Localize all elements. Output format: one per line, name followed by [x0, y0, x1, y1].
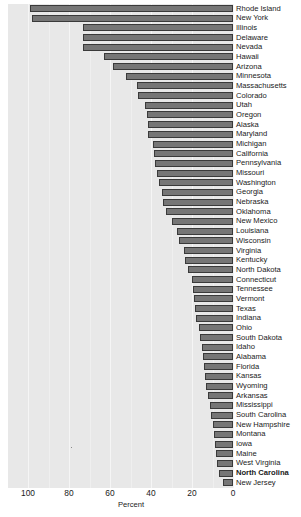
category-label: New Mexico: [236, 216, 277, 225]
x-tick-label: 60: [105, 488, 114, 498]
x-axis-title: Percent: [118, 500, 144, 509]
category-label: North Carolina: [236, 468, 289, 477]
bar: [159, 179, 233, 186]
category-label: California: [236, 149, 268, 158]
bar: [194, 295, 233, 302]
x-tick-label: 0: [231, 488, 236, 498]
category-label: Maryland: [236, 129, 267, 138]
bar: [83, 34, 233, 41]
x-tick-label: 20: [187, 488, 196, 498]
bar: [155, 160, 233, 167]
category-label: Rhode Island: [236, 4, 281, 13]
category-label: Louisiana: [236, 226, 269, 235]
bar: [200, 334, 233, 341]
bar: [199, 324, 233, 331]
bar: [203, 353, 233, 360]
category-label: Hawaii: [236, 52, 259, 61]
bar: [215, 441, 233, 448]
bar: [153, 141, 233, 148]
category-labels: Rhode IslandNew YorkIllinoisDelawareNeva…: [236, 4, 301, 488]
bar: [162, 189, 233, 196]
bar: [138, 92, 233, 99]
x-axis: Percent 100806040200: [0, 488, 301, 517]
category-label: Arizona: [236, 62, 262, 71]
category-label: Oregon: [236, 110, 261, 119]
category-label: Minnesota: [236, 71, 271, 80]
bar: [147, 111, 233, 118]
category-label: Michigan: [236, 139, 266, 148]
bar: [213, 421, 234, 428]
category-label: Tennessee: [236, 284, 273, 293]
bar: [154, 150, 233, 157]
category-label: New Jersey: [236, 478, 276, 487]
x-tick-label: 40: [146, 488, 155, 498]
bar: [113, 63, 233, 70]
bar: [126, 73, 233, 80]
bar: [206, 383, 233, 390]
bar: [172, 218, 234, 225]
bar: [202, 344, 233, 351]
bar: [223, 479, 233, 486]
category-label: Florida: [236, 362, 259, 371]
bar: [205, 373, 233, 380]
category-label: Alabama: [236, 352, 266, 361]
bar: [163, 199, 233, 206]
category-label: Georgia: [236, 187, 263, 196]
bar: [195, 305, 233, 312]
category-label: Kentucky: [236, 255, 267, 264]
bar: [193, 286, 233, 293]
category-label: Pennsylvania: [236, 158, 281, 167]
category-label: Vermont: [236, 294, 264, 303]
category-label: Arkansas: [236, 391, 268, 400]
bar: [185, 257, 233, 264]
category-label: Utah: [236, 100, 252, 109]
category-label: Delaware: [236, 33, 268, 42]
bar: [32, 15, 233, 22]
x-tick-label: 100: [21, 488, 35, 498]
category-label: Nebraska: [236, 197, 269, 206]
category-label: Maine: [236, 449, 257, 458]
bar: [177, 228, 233, 235]
category-label: Ohio: [236, 323, 252, 332]
category-label: Colorado: [236, 91, 267, 100]
bar: [210, 402, 233, 409]
category-label: South Carolina: [236, 410, 286, 419]
category-label: Wyoming: [236, 381, 268, 390]
category-label: South Dakota: [236, 333, 282, 342]
bar: [179, 237, 233, 244]
category-label: Nevada: [236, 42, 262, 51]
category-label: Idaho: [236, 342, 255, 351]
category-label: Montana: [236, 429, 266, 438]
bar: [166, 208, 233, 215]
category-label: Missouri: [236, 168, 264, 177]
bar: [104, 53, 233, 60]
category-label: Kansas: [236, 371, 261, 380]
category-label: Connecticut: [236, 275, 276, 284]
bar: [204, 363, 233, 370]
bar: [217, 460, 233, 467]
category-label: Massachusetts: [236, 81, 287, 90]
bar: [83, 24, 233, 31]
category-label: Indiana: [236, 313, 261, 322]
bar: [148, 121, 233, 128]
bar: [208, 392, 233, 399]
bar: [184, 247, 233, 254]
bar: [157, 170, 233, 177]
category-label: North Dakota: [236, 265, 281, 274]
bar: [196, 315, 233, 322]
category-label: Texas: [236, 304, 256, 313]
bar: [188, 266, 233, 273]
category-label: Iowa: [236, 439, 252, 448]
bar: [211, 412, 233, 419]
bar: [137, 82, 233, 89]
category-label: West Virginia: [236, 458, 280, 467]
category-label: Illinois: [236, 23, 257, 32]
category-label: New Hampshire: [236, 420, 290, 429]
bar: [145, 102, 233, 109]
category-label: Washington: [236, 178, 276, 187]
category-label: Wisconsin: [236, 236, 271, 245]
bar: [148, 131, 233, 138]
category-label: Virginia: [236, 246, 261, 255]
bar: [216, 450, 233, 457]
bar: [192, 276, 233, 283]
